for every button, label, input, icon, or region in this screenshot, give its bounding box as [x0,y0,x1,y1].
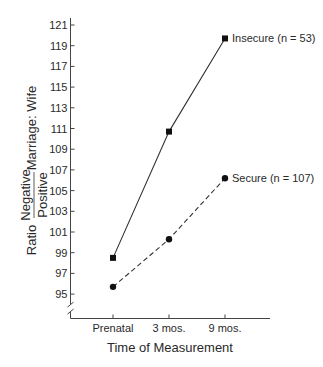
series-line [113,178,225,287]
line-chart: 959799101103105107109111113115117119121 … [0,0,323,367]
y-tick-label: 97 [55,267,67,279]
y-tick-label: 105 [49,185,67,197]
square-marker [222,35,228,41]
y-axis-title: Ratio Negative Positive Marriage: Wife [18,86,50,255]
series-layer: Insecure (n = 53)Secure (n = 107) [110,32,316,290]
series-label: Insecure (n = 53) [232,32,315,44]
y-axis-title-numerator: Negative [18,169,33,220]
y-tick-label: 121 [49,19,67,31]
y-tick-label: 107 [49,164,67,176]
circle-marker [166,236,172,242]
x-tick-label: 9 mos. [208,322,241,334]
square-marker [166,129,172,135]
y-tick-label: 103 [49,205,67,217]
x-axis: Prenatal3 mos.9 mos. [71,315,271,335]
circle-marker [222,175,228,181]
y-tick-label: 115 [50,81,68,93]
y-tick-label: 119 [50,40,68,52]
series-square: Insecure (n = 53) [110,32,315,260]
series-circle: Secure (n = 107) [110,172,314,290]
y-tick-label: 95 [55,288,67,300]
y-tick-label: 113 [50,102,68,114]
y-axis: 959799101103105107109111113115117119121 [49,18,74,319]
series-label: Secure (n = 107) [232,172,314,184]
square-marker [110,255,116,261]
circle-marker [110,284,116,290]
x-tick-label: 3 mos. [152,322,185,334]
y-tick-label: 109 [49,143,67,155]
y-axis-title-suffix: Marriage: Wife [24,86,39,171]
x-axis-title: Time of Measurement [107,340,233,355]
series-line [113,38,225,257]
x-tick-label: Prenatal [93,322,134,334]
y-axis-title-prefix: Ratio [24,225,39,255]
y-tick-label: 117 [50,60,68,72]
y-tick-label: 101 [49,226,67,238]
y-axis-title-denominator: Positive [35,172,50,218]
y-tick-label: 99 [55,247,67,259]
y-tick-label: 111 [51,123,68,135]
